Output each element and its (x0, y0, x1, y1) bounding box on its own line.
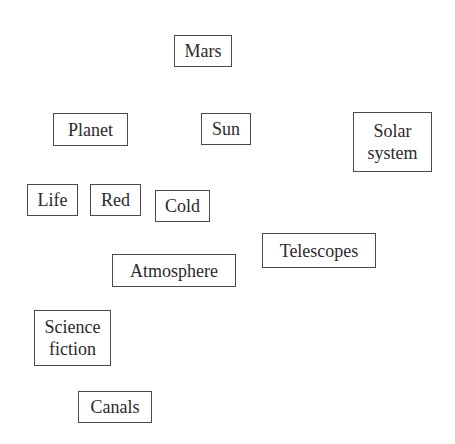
node-label: Planet (68, 119, 113, 141)
node-label: Canals (91, 396, 140, 418)
node-mars: Mars (174, 35, 232, 67)
node-telescopes: Telescopes (262, 233, 376, 268)
node-label: Sun (212, 118, 240, 140)
node-planet: Planet (53, 113, 128, 146)
node-label: Cold (165, 195, 200, 217)
node-label: Red (101, 189, 130, 211)
node-label: Mars (185, 40, 222, 62)
node-cold: Cold (155, 190, 210, 222)
node-sun: Sun (201, 113, 251, 145)
node-atmosphere: Atmosphere (112, 254, 236, 287)
node-label: Telescopes (280, 240, 359, 262)
node-label: Atmosphere (130, 260, 218, 282)
node-science-fiction: Science fiction (34, 310, 111, 366)
node-label: Life (38, 189, 68, 211)
node-life: Life (27, 184, 78, 216)
node-solar-system: Solar system (353, 112, 432, 172)
node-canals: Canals (78, 391, 152, 423)
concept-diagram: Mars Planet Sun Solar system Life Red Co… (0, 0, 455, 444)
node-red: Red (90, 184, 141, 216)
node-label: Solar system (367, 120, 417, 164)
node-label: Science fiction (45, 316, 101, 360)
